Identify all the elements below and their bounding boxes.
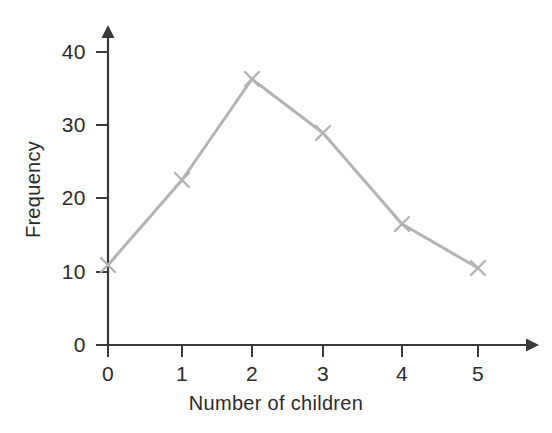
y-tick-label-20: 20 [40, 186, 86, 210]
data-point-4 [395, 217, 409, 231]
data-series-line [108, 79, 478, 268]
y-tick-label-0: 0 [40, 333, 86, 357]
x-tick-label-3: 3 [303, 362, 343, 386]
x-tick-label-0: 0 [88, 362, 128, 386]
x-tick-label-4: 4 [382, 362, 422, 386]
x-axis-title: Number of children [0, 392, 552, 415]
data-point-markers [101, 72, 485, 275]
y-tick-label-30: 30 [40, 113, 86, 137]
data-point-1 [175, 173, 189, 187]
x-tick-label-5: 5 [458, 362, 498, 386]
x-tick-label-1: 1 [162, 362, 202, 386]
data-point-5 [471, 261, 485, 275]
data-point-2 [245, 72, 259, 86]
data-point-3 [316, 126, 330, 140]
x-tick-label-2: 2 [232, 362, 272, 386]
y-tick-label-40: 40 [40, 40, 86, 64]
y-axis-ticks [96, 52, 108, 345]
line-chart: 0 10 20 30 40 0 1 2 3 4 5 Number of chil… [0, 0, 552, 433]
y-axis-title: Frequency [22, 110, 45, 270]
y-tick-label-10: 10 [40, 260, 86, 284]
